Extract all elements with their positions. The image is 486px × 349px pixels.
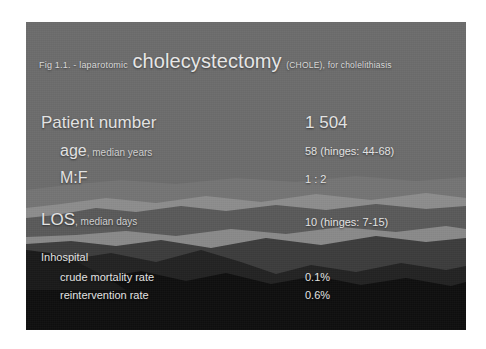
section-heading-inhospital: Inhospital xyxy=(41,251,88,263)
row-value-los: 10 (hinges: 7-15) xyxy=(305,216,388,228)
slide-canvas: Fig 1.1. - laparotomic cholecystectomy (… xyxy=(26,22,466,330)
row-value-mf: 1 : 2 xyxy=(305,173,326,185)
row-label-age: age, median years xyxy=(60,142,152,160)
row-value-crude-mortality-rate: 0.1% xyxy=(305,271,330,283)
slide-content: Fig 1.1. - laparotomic cholecystectomy (… xyxy=(26,22,466,330)
row-label-patient-number: Patient number xyxy=(41,113,156,133)
row-label-age-sub: , median years xyxy=(87,147,153,158)
row-label-los: LOS, median days xyxy=(41,210,137,230)
figure-title: Fig 1.1. - laparotomic cholecystectomy (… xyxy=(39,50,454,73)
row-label-mf: M:F xyxy=(60,169,88,187)
row-value-patient-number: 1 504 xyxy=(305,113,348,133)
row-label-los-sub: , median days xyxy=(75,216,137,227)
row-label-reintervention-rate: reintervention rate xyxy=(60,289,149,301)
figure-title-suffix: (CHOLE), for cholelithiasis xyxy=(286,60,392,70)
row-label-crude-mortality-rate: crude mortality rate xyxy=(60,271,154,283)
row-value-reintervention-rate: 0.6% xyxy=(305,289,330,301)
row-label-age-main: age xyxy=(60,142,87,159)
figure-title-prefix: Fig 1.1. - laparotomic xyxy=(39,60,128,70)
figure-title-main: cholecystectomy xyxy=(132,50,281,72)
row-value-age: 58 (hinges: 44-68) xyxy=(305,145,394,157)
row-label-los-main: LOS xyxy=(41,210,75,229)
